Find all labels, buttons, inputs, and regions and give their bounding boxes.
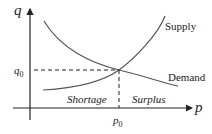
shortage-label: Shortage [67, 94, 107, 105]
p0-label: p0 [113, 115, 123, 129]
x-axis-label: p [195, 100, 203, 115]
supply-demand-diagram: q p q0 p0 Supply Demand Shortage Surplus [0, 0, 212, 134]
q0-label: q0 [14, 65, 24, 79]
y-axis-label: q [14, 3, 22, 18]
supply-label: Supply [165, 21, 196, 32]
demand-curve [44, 21, 178, 86]
demand-label: Demand [168, 72, 205, 83]
surplus-label: Surplus [132, 94, 166, 105]
supply-curve [43, 16, 165, 90]
